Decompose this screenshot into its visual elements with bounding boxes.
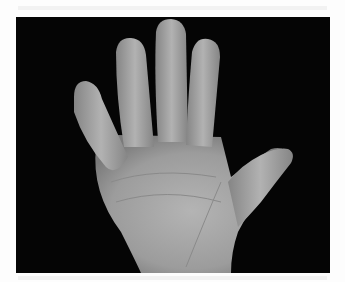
- hand-photo: [16, 17, 330, 273]
- faint-caption-top: [18, 6, 327, 10]
- faint-caption-bottom: [18, 276, 327, 280]
- hand-illustration: [16, 17, 330, 273]
